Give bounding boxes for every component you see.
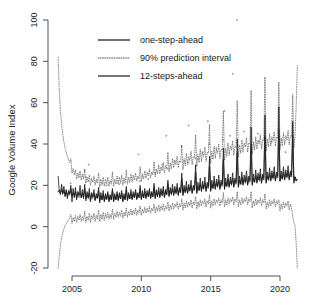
observed-point <box>165 135 167 137</box>
observed-point <box>106 184 108 186</box>
x-axis-tick-label: 2015 <box>201 284 221 294</box>
y-axis-tick-label: -20 <box>29 261 39 274</box>
y-axis-tick-label: 0 <box>29 224 39 229</box>
chart-container: -20020406080100 2005201020152020 Google … <box>0 0 334 307</box>
observed-point <box>257 133 259 135</box>
observed-point <box>215 147 217 149</box>
observed-point <box>236 19 238 21</box>
y-axis-title: Google Volume Index <box>6 104 17 195</box>
y-axis-tick-label: 80 <box>29 56 39 66</box>
x-axis-tick-label: 2005 <box>62 284 82 294</box>
observed-point <box>70 182 72 184</box>
one-step-ahead-path <box>58 107 297 203</box>
pi-lower-path <box>58 192 297 268</box>
prediction-interval-lower-series <box>58 192 297 268</box>
one-step-ahead-series <box>58 107 297 203</box>
legend-label: 12-steps-ahead <box>140 71 203 81</box>
observed-point <box>207 120 209 122</box>
observed-point <box>147 178 149 180</box>
observed-point <box>229 135 231 137</box>
y-axis: -20020406080100 <box>29 12 48 274</box>
observed-point <box>139 180 141 182</box>
observed-point <box>88 164 90 166</box>
observed-point <box>285 151 287 153</box>
x-axis: 2005201020152020 <box>62 276 290 294</box>
legend-label: 90% prediction interval <box>140 53 231 63</box>
observed-point <box>188 125 190 127</box>
x-axis-tick-label: 2010 <box>131 284 151 294</box>
chart-legend: one-step-ahead90% prediction interval12-… <box>98 35 231 81</box>
x-axis-tick-label: 2020 <box>270 284 290 294</box>
google-volume-index-forecast-chart: -20020406080100 2005201020152020 Google … <box>0 0 334 307</box>
y-axis-tick-label: 20 <box>29 180 39 190</box>
legend-label: one-step-ahead <box>140 35 203 45</box>
y-axis-tick-label: 40 <box>29 139 39 149</box>
observed-point <box>243 131 245 133</box>
observed-point <box>138 153 140 155</box>
observed-point <box>224 110 226 112</box>
observed-point <box>232 73 234 75</box>
y-axis-tick-label: 60 <box>29 98 39 108</box>
y-axis-tick-label: 100 <box>29 12 39 27</box>
